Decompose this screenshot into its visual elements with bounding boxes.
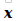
variable-x-symbol: x <box>4 7 12 19</box>
partial-box-shape <box>5 0 12 3</box>
